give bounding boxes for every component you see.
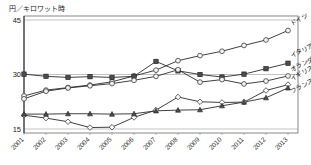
svg-text:2004: 2004 <box>75 136 91 152</box>
line-chart-svg: 453015 200120022003200420052006200720082… <box>0 0 311 165</box>
chart-container: 円／キロワット時 453015 200120022003200420052006… <box>0 0 311 165</box>
svg-text:2008: 2008 <box>163 136 179 152</box>
svg-text:2013: 2013 <box>273 136 289 152</box>
svg-text:2001: 2001 <box>9 136 25 152</box>
svg-text:ドイツ: ドイツ <box>289 12 308 27</box>
y-axis-tick-labels: 453015 <box>13 16 21 134</box>
svg-text:2007: 2007 <box>141 136 157 152</box>
svg-text:2003: 2003 <box>53 136 69 152</box>
svg-text:45: 45 <box>13 16 21 25</box>
svg-text:2005: 2005 <box>97 136 113 152</box>
svg-text:2002: 2002 <box>31 136 47 152</box>
x-axis-tick-labels: 2001200220032004200520062007200820092010… <box>9 133 289 151</box>
svg-text:15: 15 <box>13 125 21 134</box>
svg-text:2006: 2006 <box>119 136 135 152</box>
svg-text:2009: 2009 <box>185 136 201 152</box>
svg-text:2011: 2011 <box>230 136 245 151</box>
series-labels: ドイツイタリアオランダイギリスフランス <box>289 12 311 95</box>
svg-text:2010: 2010 <box>207 136 223 152</box>
svg-text:2012: 2012 <box>251 136 267 152</box>
svg-text:30: 30 <box>13 70 21 79</box>
